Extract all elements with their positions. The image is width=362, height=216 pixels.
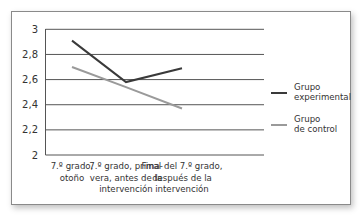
x-category-label: 7.º grado,	[51, 161, 94, 171]
x-category-label: otoño	[60, 173, 85, 183]
x-category-label: intervención	[155, 184, 209, 194]
y-tick-label: 2,8	[22, 49, 38, 60]
legend: GrupoexperimentalGrupode control	[271, 82, 351, 134]
x-category-label: después de la	[152, 173, 212, 183]
y-tick-label: 3	[32, 24, 38, 35]
series-line	[72, 41, 182, 82]
legend-label: de control	[294, 124, 337, 134]
y-tick-label: 2,2	[22, 124, 38, 135]
x-category-label: intervención	[99, 184, 153, 194]
gridlines	[46, 29, 265, 155]
line-chart: 22,22,42,62,83 7.º grado,otoño7.º grado,…	[0, 0, 362, 216]
legend-label: experimental	[294, 92, 351, 102]
series-lines	[72, 41, 182, 109]
x-category-label: Final del 7.º grado,	[141, 161, 222, 171]
y-tick-label: 2	[32, 150, 38, 161]
legend-label: Grupo	[294, 114, 320, 124]
y-tick-label: 2,6	[22, 74, 38, 85]
y-tick-labels: 22,22,42,62,83	[22, 24, 38, 161]
legend-label: Grupo	[294, 82, 320, 92]
y-tick-label: 2,4	[22, 99, 38, 110]
x-category-labels: 7.º grado,otoño7.º grado, prima-vera, an…	[51, 161, 223, 194]
